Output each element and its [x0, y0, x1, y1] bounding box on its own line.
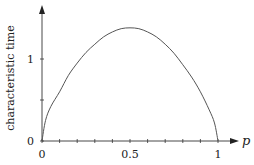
- y-axis-arrow-icon: [39, 5, 45, 14]
- y-tick-label: 0: [27, 135, 34, 148]
- y-tick-label: 1: [27, 53, 34, 66]
- y-axis-label: characteristic time: [4, 25, 17, 131]
- y-ticks: 01: [27, 53, 44, 148]
- x-tick-label: 1: [215, 148, 222, 161]
- x-axis: [42, 138, 239, 144]
- x-axis-label: p: [242, 133, 251, 148]
- y-axis: [39, 5, 45, 141]
- x-tick-label: 0.5: [121, 148, 139, 161]
- x-ticks: 00.51: [39, 139, 222, 161]
- x-axis-arrow-icon: [230, 138, 239, 144]
- x-tick-label: 0: [39, 148, 46, 161]
- data-curve: [42, 28, 218, 141]
- chart: 00.51 01 p characteristic time: [0, 0, 254, 165]
